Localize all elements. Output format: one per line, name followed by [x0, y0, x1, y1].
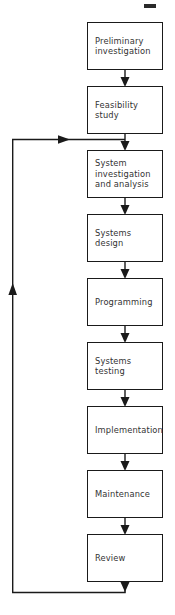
node-label-preliminary-investigation: Preliminary investigation [95, 36, 151, 57]
arrow-programming-to-systems-testing [121, 326, 130, 343]
arrow-system-investigation-to-systems-design [121, 198, 130, 215]
node-label-maintenance: Maintenance [95, 489, 150, 500]
arrow-implementation-to-maintenance [121, 454, 130, 471]
node-label-systems-testing: Systems testing [95, 356, 131, 377]
node-label-systems-design: Systems design [95, 228, 131, 249]
arrow-feasibility-to-system-investigation [121, 134, 130, 151]
node-label-review: Review [95, 553, 126, 564]
arrow-systems-design-to-programming [121, 262, 130, 279]
flowchart-canvas: Preliminary investigation Feasibility st… [0, 0, 175, 615]
node-system-investigation-and-analysis[interactable]: System investigation and analysis [87, 150, 163, 198]
node-implementation[interactable]: Implementation [87, 406, 163, 454]
node-label-implementation: Implementation [95, 425, 163, 436]
node-label-feasibility-study: Feasibility study [95, 100, 138, 121]
node-systems-testing[interactable]: Systems testing [87, 342, 163, 390]
node-label-programming: Programming [95, 297, 153, 308]
node-review[interactable]: Review [87, 534, 163, 582]
node-maintenance[interactable]: Maintenance [87, 470, 163, 518]
arrow-systems-testing-to-implementation [121, 390, 130, 407]
node-label-system-investigation-and-analysis: System investigation and analysis [95, 158, 151, 190]
scan-artifact-mark [144, 4, 156, 8]
arrow-maintenance-to-review [121, 518, 130, 535]
node-programming[interactable]: Programming [87, 278, 163, 326]
node-systems-design[interactable]: Systems design [87, 214, 163, 262]
node-preliminary-investigation[interactable]: Preliminary investigation [87, 22, 163, 70]
arrow-preliminary-to-feasibility [121, 70, 130, 87]
node-feasibility-study[interactable]: Feasibility study [87, 86, 163, 134]
